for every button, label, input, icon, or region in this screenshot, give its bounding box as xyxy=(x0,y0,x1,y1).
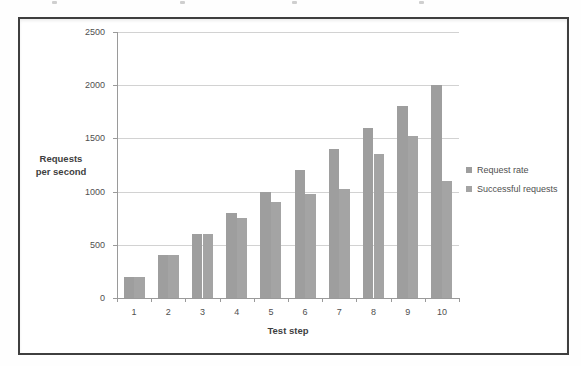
gridline-2500 xyxy=(117,32,459,33)
legend-entry-request-rate: Request rate xyxy=(466,165,558,175)
cropped-text-remnant xyxy=(52,1,57,4)
y-axis-title-line2: per second xyxy=(28,165,94,178)
x-tick-mark xyxy=(117,298,118,302)
bar-request-rate-step-3 xyxy=(192,234,202,298)
legend: Request rateSuccessful requests xyxy=(466,165,558,203)
y-tick-label: 500 xyxy=(63,240,105,250)
x-tick-label: 6 xyxy=(290,307,320,317)
bar-successful-requests-step-6 xyxy=(305,194,315,298)
bar-successful-requests-step-9 xyxy=(408,136,418,298)
bar-request-rate-step-7 xyxy=(329,149,339,298)
x-tick-label: 8 xyxy=(359,307,389,317)
bar-request-rate-step-5 xyxy=(260,192,270,298)
bar-request-rate-step-1 xyxy=(124,277,134,298)
bar-successful-requests-step-4 xyxy=(237,218,247,298)
legend-label: Successful requests xyxy=(477,184,558,194)
y-tick-label: 1500 xyxy=(63,133,105,143)
x-tick-mark xyxy=(391,298,392,302)
bar-request-rate-step-4 xyxy=(226,213,236,298)
x-tick-label: 9 xyxy=(393,307,423,317)
x-tick-mark xyxy=(288,298,289,302)
bar-successful-requests-step-8 xyxy=(374,154,384,298)
y-axis-line xyxy=(117,32,118,298)
scanned-page: 0500100015002000250012345678910 Requests… xyxy=(0,0,581,366)
x-tick-mark xyxy=(185,298,186,302)
x-tick-label: 2 xyxy=(153,307,183,317)
legend-label: Request rate xyxy=(477,165,529,175)
chart-figure: 0500100015002000250012345678910 Requests… xyxy=(18,17,569,355)
x-tick-mark xyxy=(322,298,323,302)
y-axis-title: Requests per second xyxy=(28,152,94,178)
bar-request-rate-step-2 xyxy=(158,255,168,298)
legend-marker-icon xyxy=(466,186,472,192)
x-tick-mark xyxy=(254,298,255,302)
x-tick-mark xyxy=(151,298,152,302)
cropped-text-remnant xyxy=(292,1,297,4)
legend-entry-successful-requests: Successful requests xyxy=(466,184,558,194)
legend-marker-icon xyxy=(466,167,472,173)
x-tick-label: 1 xyxy=(119,307,149,317)
bar-successful-requests-step-3 xyxy=(203,234,213,298)
x-tick-label: 10 xyxy=(427,307,457,317)
cropped-text-remnant xyxy=(419,1,424,4)
y-tick-label: 0 xyxy=(63,293,105,303)
x-tick-label: 4 xyxy=(222,307,252,317)
bar-request-rate-step-10 xyxy=(431,85,441,298)
x-tick-label: 5 xyxy=(256,307,286,317)
x-tick-mark xyxy=(220,298,221,302)
cropped-text-remnant xyxy=(180,1,185,4)
bar-successful-requests-step-2 xyxy=(168,255,178,298)
x-tick-label: 7 xyxy=(324,307,354,317)
x-tick-mark xyxy=(356,298,357,302)
bar-successful-requests-step-7 xyxy=(339,189,349,298)
bar-request-rate-step-6 xyxy=(295,170,305,298)
bar-successful-requests-step-5 xyxy=(271,202,281,298)
y-tick-label: 2500 xyxy=(63,27,105,37)
bar-successful-requests-step-10 xyxy=(442,181,452,298)
y-tick-label: 1000 xyxy=(63,187,105,197)
bar-request-rate-step-9 xyxy=(397,106,407,298)
y-axis-title-line1: Requests xyxy=(28,152,94,165)
x-tick-mark xyxy=(459,298,460,302)
x-axis-title: Test step xyxy=(218,325,358,336)
bar-successful-requests-step-1 xyxy=(134,277,144,298)
y-tick-label: 2000 xyxy=(63,80,105,90)
x-tick-label: 3 xyxy=(188,307,218,317)
bar-request-rate-step-8 xyxy=(363,128,373,298)
x-tick-mark xyxy=(425,298,426,302)
gridline-2000 xyxy=(117,85,459,86)
